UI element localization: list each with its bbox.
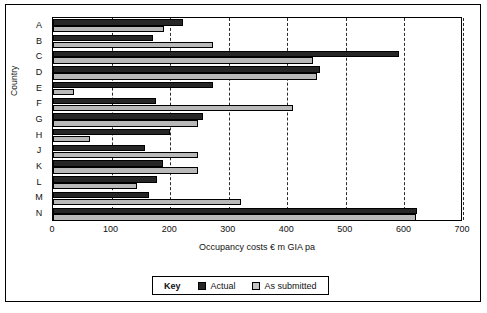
plot-area [52,17,462,221]
bar-group-G [53,113,461,126]
y-tick-M: M [30,192,48,202]
legend-label-actual: Actual [211,281,236,291]
chart-figure: Country ABCDEFGHJKLMN 010020030040050060… [0,0,487,313]
y-tick-B: B [30,36,48,46]
x-tick-400: 400 [266,224,306,234]
bar-C-actual [53,51,399,57]
y-tick-D: D [30,67,48,77]
bar-group-K [53,160,461,173]
bar-G-as-submitted [53,120,198,126]
bar-group-N [53,208,461,221]
bar-group-J [53,145,461,158]
bar-group-C [53,51,461,64]
legend-entry-actual: Actual [198,281,236,291]
y-axis-title: Country [9,36,23,96]
bar-group-A [53,19,461,32]
bar-M-as-submitted [53,199,241,205]
x-axis-tick-labels: 0100200300400500600700 [52,224,462,238]
x-tick-600: 600 [383,224,423,234]
bar-F-as-submitted [53,105,293,111]
bar-group-B [53,35,461,48]
bar-F-actual [53,98,156,104]
y-tick-E: E [30,83,48,93]
y-tick-H: H [30,130,48,140]
x-tick-200: 200 [149,224,189,234]
y-tick-J: J [30,145,48,155]
x-tick-300: 300 [208,224,248,234]
bar-E-actual [53,82,213,88]
bar-E-as-submitted [53,89,74,95]
legend-label-as-submitted: As submitted [265,281,317,291]
bar-D-as-submitted [53,73,317,79]
bar-H-as-submitted [53,136,90,142]
actual-swatch-icon [198,282,206,290]
x-tick-0: 0 [32,224,72,234]
y-axis-tick-labels: ABCDEFGHJKLMN [30,17,48,221]
y-tick-F: F [30,98,48,108]
bar-A-actual [53,19,183,25]
bar-C-as-submitted [53,57,313,63]
legend: Key Actual As submitted [152,276,329,295]
bar-J-actual [53,145,145,151]
bars-layer [53,18,461,220]
bar-group-H [53,129,461,142]
bar-A-as-submitted [53,26,164,32]
bar-group-D [53,66,461,79]
bar-K-actual [53,160,163,166]
y-tick-C: C [30,51,48,61]
bar-group-L [53,176,461,189]
y-tick-L: L [30,177,48,187]
bar-group-E [53,82,461,95]
bar-M-actual [53,192,149,198]
y-tick-K: K [30,161,48,171]
x-tick-100: 100 [91,224,131,234]
bar-G-actual [53,113,203,119]
bar-N-actual [53,208,417,214]
bar-group-F [53,98,461,111]
bar-B-as-submitted [53,42,213,48]
legend-entry-as-submitted: As submitted [252,281,317,291]
bar-L-as-submitted [53,183,137,189]
x-tick-500: 500 [325,224,365,234]
bar-K-as-submitted [53,167,198,173]
bar-D-actual [53,66,320,72]
y-tick-N: N [30,208,48,218]
y-tick-A: A [30,20,48,30]
y-tick-G: G [30,114,48,124]
bar-J-as-submitted [53,152,198,158]
bar-L-actual [53,176,157,182]
as-submitted-swatch-icon [252,282,260,290]
bar-N-as-submitted [53,214,416,220]
legend-key-label: Key [164,281,181,291]
x-axis-title: Occupancy costs € m GIA pa [52,242,462,252]
bar-B-actual [53,35,153,41]
bar-group-M [53,192,461,205]
bar-H-actual [53,129,170,135]
x-tick-700: 700 [442,224,482,234]
